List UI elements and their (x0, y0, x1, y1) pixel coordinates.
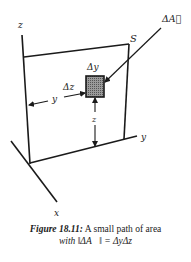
y-axis-label: y (140, 132, 147, 142)
delta-y-label: Δy (86, 62, 99, 72)
x-axis-line (11, 141, 57, 202)
caption-line-2: with ‖ΔA⃗‖ = ΔyΔz (0, 235, 191, 247)
z-axis-line (22, 35, 30, 164)
area-vector-label: ΔA⃗ (161, 13, 181, 24)
y-distance-line-right (64, 93, 85, 97)
surface-outline (24, 44, 129, 139)
z-distance-label: z (91, 115, 97, 124)
x-axis-label: x (54, 208, 59, 218)
y-distance-line-left (29, 101, 48, 105)
y-axis-line (30, 136, 137, 163)
caption-text-1: A small path of area (83, 224, 161, 234)
z-axis-label: z (17, 20, 23, 30)
figure-caption: Figure 18.11: A small path of area with … (0, 223, 191, 247)
surface-top-edge (24, 44, 129, 57)
area-patch (86, 76, 104, 97)
y-distance-label: y (51, 94, 58, 104)
caption-text-2: with ‖ΔA⃗‖ = ΔyΔz (59, 236, 132, 246)
surface-label: S (130, 33, 137, 44)
caption-line-1: Figure 18.11: A small path of area (0, 223, 191, 235)
delta-z-label: Δz (62, 82, 74, 92)
axes (11, 35, 137, 202)
figure-number: Figure 18.11: (30, 224, 83, 234)
surface-right-edge (124, 44, 129, 139)
